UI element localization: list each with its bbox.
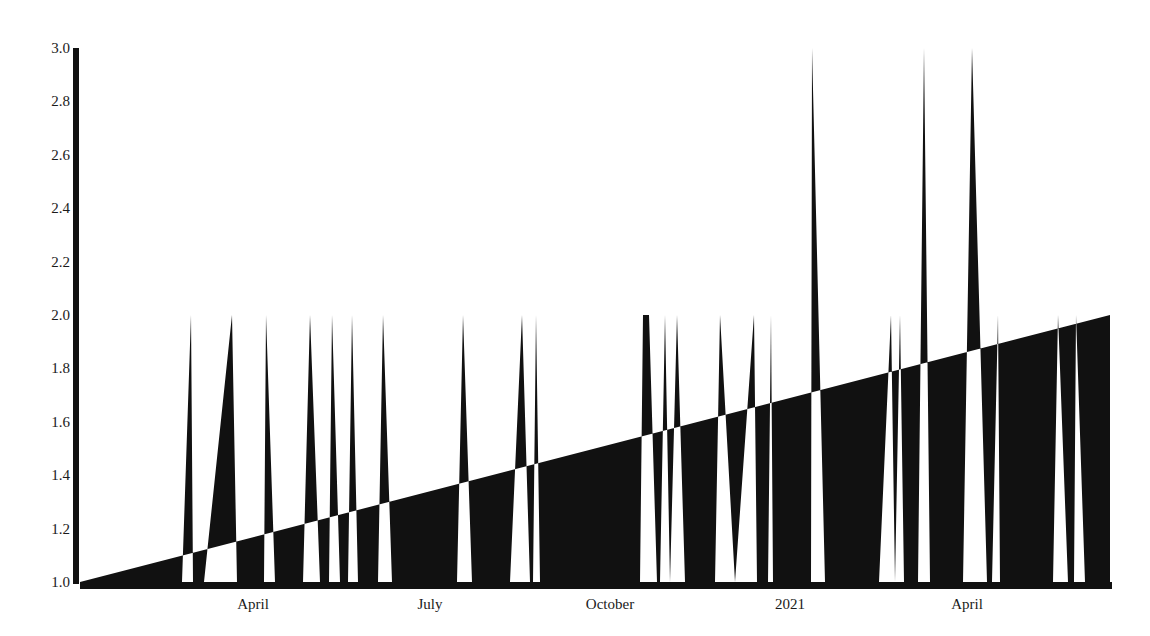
y-tick-label: 3.0: [51, 40, 70, 56]
x-axis-line: [80, 582, 1112, 589]
y-tick-label: 2.6: [51, 147, 70, 163]
area-series-evenodd: [80, 48, 1110, 582]
y-tick-label: 2.2: [51, 254, 70, 270]
y-tick-label: 2.0: [51, 307, 70, 323]
y-tick-label: 1.0: [51, 574, 70, 590]
x-tick-label: 2021: [775, 596, 805, 612]
x-tick-label: July: [417, 596, 443, 612]
y-axis: 1.01.21.41.61.82.02.22.42.62.83.0: [51, 40, 79, 590]
y-tick-label: 1.6: [51, 414, 70, 430]
x-axis: AprilJulyOctober2021April: [80, 582, 1112, 612]
chart: 1.01.21.41.61.82.02.22.42.62.83.0 AprilJ…: [0, 0, 1150, 636]
x-tick-label: April: [951, 596, 983, 612]
y-tick-label: 2.8: [51, 93, 70, 109]
x-tick-label: April: [237, 596, 269, 612]
y-tick-label: 1.4: [51, 467, 70, 483]
y-axis-line: [73, 48, 79, 584]
chart-svg: 1.01.21.41.61.82.02.22.42.62.83.0 AprilJ…: [0, 0, 1150, 636]
y-tick-label: 1.8: [51, 360, 70, 376]
x-tick-label: October: [586, 596, 634, 612]
y-tick-label: 2.4: [51, 200, 70, 216]
y-tick-label: 1.2: [51, 521, 70, 537]
